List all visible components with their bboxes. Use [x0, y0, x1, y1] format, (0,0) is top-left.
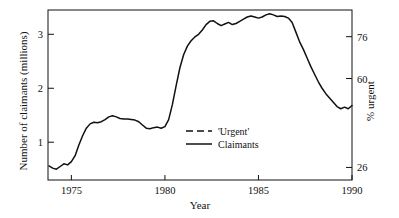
chart-legend: 'Urgent'Claimants — [186, 126, 259, 150]
y-tick-label-right: 26 — [357, 162, 368, 173]
y-axis-left-ticks: 123 — [38, 29, 54, 148]
y-axis-right-ticks: 266076 — [346, 32, 368, 174]
plot-area: 1975198019851990 123 266076 'Urgent'Clai… — [0, 0, 399, 218]
data-series-layer — [49, 14, 352, 218]
plot-frame — [48, 10, 352, 180]
y-tick-label-right: 60 — [357, 74, 368, 85]
x-axis-ticks: 1975198019851990 — [61, 175, 363, 196]
y-tick-label-left: 3 — [38, 29, 43, 40]
y-tick-label-left: 1 — [38, 137, 43, 148]
legend-label: 'Urgent' — [218, 126, 249, 137]
y-tick-label-left: 2 — [38, 83, 43, 94]
x-tick-label: 1985 — [248, 185, 269, 196]
series-line-claimants — [49, 14, 352, 169]
chart-figure: Number of claimants (millions) % urgent … — [0, 0, 399, 218]
legend-label: Claimants — [218, 139, 259, 150]
y-tick-label-right: 76 — [357, 32, 368, 43]
x-tick-label: 1990 — [342, 185, 363, 196]
x-tick-label: 1975 — [61, 185, 82, 196]
x-tick-label: 1980 — [154, 185, 175, 196]
